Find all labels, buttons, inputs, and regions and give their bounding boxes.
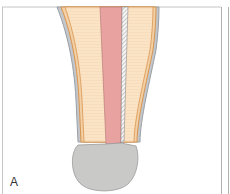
panel-label: A xyxy=(10,176,18,188)
tooth-root-diagram xyxy=(0,0,230,194)
apical-extrusion-ball xyxy=(72,143,138,191)
figure-panel: A xyxy=(0,0,230,194)
